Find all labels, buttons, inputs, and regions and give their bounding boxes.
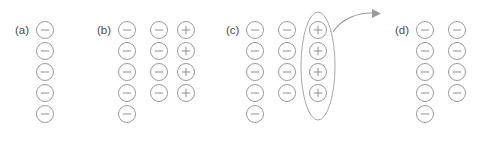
charge-diagram-canvas: (a)(b)(c)(d) bbox=[0, 0, 487, 142]
charge-plus bbox=[178, 64, 195, 81]
charge-minus bbox=[247, 43, 264, 60]
charge-minus bbox=[417, 64, 434, 81]
charge-column-a-col-1 bbox=[37, 22, 54, 123]
charge-minus bbox=[449, 43, 466, 60]
charge-minus bbox=[279, 22, 296, 39]
panel-d: (d) bbox=[395, 22, 466, 123]
charge-minus bbox=[37, 43, 54, 60]
charge-minus bbox=[417, 106, 434, 123]
charge-column-c-col-3 bbox=[310, 22, 327, 102]
charge-minus bbox=[151, 64, 168, 81]
charge-column-b-col-1 bbox=[119, 22, 136, 123]
charge-minus bbox=[119, 64, 136, 81]
panel-label-a: (a) bbox=[15, 24, 29, 36]
panel-label-c: (c) bbox=[226, 24, 240, 36]
charge-minus bbox=[449, 22, 466, 39]
charge-plus bbox=[310, 85, 327, 102]
c-motion-arrow bbox=[333, 13, 372, 32]
charge-minus bbox=[449, 85, 466, 102]
charge-plus bbox=[310, 22, 327, 39]
charge-minus bbox=[37, 64, 54, 81]
panel-c: (c) bbox=[226, 9, 381, 123]
charge-diagram-figure: (a)(b)(c)(d) bbox=[0, 0, 487, 142]
charge-minus bbox=[151, 22, 168, 39]
panel-a: (a) bbox=[15, 22, 54, 123]
charge-column-d-col-1 bbox=[417, 22, 434, 123]
charge-minus bbox=[119, 22, 136, 39]
charge-minus bbox=[279, 43, 296, 60]
charge-minus bbox=[247, 106, 264, 123]
charge-column-d-col-2 bbox=[449, 22, 466, 102]
charge-column-b-col-2 bbox=[151, 22, 168, 102]
charge-minus bbox=[119, 43, 136, 60]
charge-minus bbox=[279, 85, 296, 102]
panel-label-b: (b) bbox=[97, 24, 111, 36]
panel-b: (b) bbox=[97, 22, 195, 123]
charge-minus bbox=[247, 85, 264, 102]
charge-column-b-col-3 bbox=[178, 22, 195, 102]
charge-minus bbox=[151, 85, 168, 102]
charge-minus bbox=[37, 106, 54, 123]
charge-column-c-col-2 bbox=[279, 22, 296, 102]
charge-plus bbox=[178, 85, 195, 102]
charge-minus bbox=[417, 43, 434, 60]
charge-minus bbox=[247, 22, 264, 39]
charge-minus bbox=[119, 85, 136, 102]
charge-minus bbox=[417, 22, 434, 39]
charge-column-c-col-1 bbox=[247, 22, 264, 123]
charge-minus bbox=[417, 85, 434, 102]
charge-plus bbox=[310, 64, 327, 81]
charge-minus bbox=[119, 106, 136, 123]
charge-plus bbox=[310, 43, 327, 60]
charge-minus bbox=[449, 64, 466, 81]
charge-plus bbox=[178, 22, 195, 39]
charge-minus bbox=[247, 64, 264, 81]
charge-minus bbox=[279, 64, 296, 81]
charge-minus bbox=[151, 43, 168, 60]
c-motion-arrow-head bbox=[372, 9, 381, 18]
charge-plus bbox=[178, 43, 195, 60]
panel-label-d: (d) bbox=[395, 24, 409, 36]
charge-minus bbox=[37, 22, 54, 39]
charge-minus bbox=[37, 85, 54, 102]
